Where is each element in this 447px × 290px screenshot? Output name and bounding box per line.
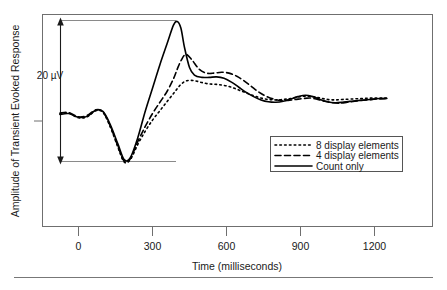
legend-label-1: 4 display elements [316,150,399,161]
chart-canvas: 20 µV 0 300 600 900 1200 Time (milliseco… [0,0,447,290]
x-tick-label-600: 600 [218,240,236,252]
legend-label-0: 8 display elements [316,140,399,151]
plot-border [43,15,433,227]
x-tick-marks [79,227,375,237]
scale-bar-label: 20 µV [37,70,64,81]
x-tick-label-900: 900 [292,240,310,252]
legend: 8 display elements 4 display elements Co… [271,137,403,172]
x-tick-label-300: 300 [144,240,162,252]
evoked-response-figure: 20 µV 0 300 600 900 1200 Time (milliseco… [0,0,447,290]
y-axis-title: Amplitude of Transient Evoked Response [9,25,21,218]
x-tick-label-0: 0 [76,240,82,252]
legend-label-2: Count only [316,161,364,172]
scale-bar-arrow [57,18,64,165]
x-axis-title: Time (milliseconds) [192,260,282,272]
x-tick-label-1200: 1200 [363,240,387,252]
